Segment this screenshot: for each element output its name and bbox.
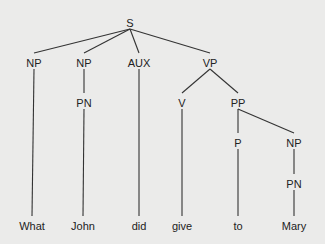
node-v: V <box>178 97 186 109</box>
node-np3: NP <box>286 137 301 149</box>
edge-np1-w1 <box>32 69 34 216</box>
node-w1: What <box>19 220 45 232</box>
node-p: P <box>234 137 241 149</box>
node-np1: NP <box>26 57 41 69</box>
node-w6: Mary <box>282 220 307 232</box>
node-pn1: PN <box>76 97 91 109</box>
tree-edges <box>32 29 294 216</box>
node-s: S <box>126 17 133 29</box>
node-np2: NP <box>76 57 91 69</box>
node-vp: VP <box>203 57 218 69</box>
node-pn2: PN <box>286 178 301 190</box>
edge-s-vp <box>130 29 210 53</box>
edge-vp-pp <box>210 69 238 93</box>
node-w5: to <box>233 220 242 232</box>
node-w4: give <box>172 220 192 232</box>
syntax-tree: SNPNPAUXVPPNVPPPNPPNWhatJohndidgivetoMar… <box>0 0 325 244</box>
edge-pp-np3 <box>238 109 294 133</box>
node-aux: AUX <box>128 57 151 69</box>
node-w3: did <box>132 220 147 232</box>
edge-s-np1 <box>34 29 130 53</box>
node-w2: John <box>71 220 95 232</box>
edge-pn1-w2 <box>83 109 84 216</box>
edge-s-np2 <box>84 29 130 53</box>
tree-nodes: SNPNPAUXVPPNVPPPNPPNWhatJohndidgivetoMar… <box>19 17 307 232</box>
edge-vp-v <box>182 69 210 93</box>
node-pp: PP <box>231 97 246 109</box>
edge-s-aux <box>130 29 139 53</box>
